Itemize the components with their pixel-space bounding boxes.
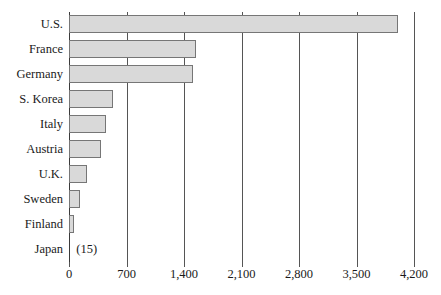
bar-row [69, 62, 414, 87]
bar-row [69, 212, 414, 237]
bar-row [69, 87, 414, 112]
bar [69, 90, 113, 108]
bar-row [69, 112, 414, 137]
category-label: Italy [40, 112, 63, 137]
category-label: Finland [25, 212, 63, 237]
category-label: U.S. [41, 12, 63, 37]
category-label: Sweden [23, 187, 63, 212]
category-axis-labels: U.S.FranceGermanyS. KoreaItalyAustriaU.K… [0, 12, 63, 262]
gridline [414, 12, 415, 262]
bar-row: (15) [69, 237, 414, 262]
tick-label: 700 [117, 266, 136, 282]
tick-label: 1,400 [170, 266, 198, 282]
bar [69, 40, 196, 58]
plot-area: (15) [69, 12, 414, 262]
bar-value-annotation: (15) [76, 240, 97, 258]
bar [69, 65, 193, 83]
category-label: Germany [16, 62, 63, 87]
bar [69, 165, 87, 183]
bar-chart: U.S.FranceGermanyS. KoreaItalyAustriaU.K… [0, 0, 441, 295]
tick-label: 2,100 [227, 266, 255, 282]
category-label: Austria [26, 137, 63, 162]
category-label: France [29, 37, 63, 62]
bar [69, 215, 74, 233]
tick-label: 3,500 [342, 266, 370, 282]
bar-row [69, 137, 414, 162]
bar [69, 15, 398, 33]
bar-row [69, 12, 414, 37]
tick-label: 2,800 [285, 266, 313, 282]
tick-label: 0 [66, 266, 72, 282]
category-label: Japan [35, 237, 63, 262]
bar [69, 115, 106, 133]
category-label: U.K. [39, 162, 63, 187]
category-label: S. Korea [19, 87, 63, 112]
bar-row [69, 37, 414, 62]
bar-row [69, 187, 414, 212]
bar [69, 140, 101, 158]
bar [69, 190, 80, 208]
tick-label: 4,200 [400, 266, 428, 282]
bar-row [69, 162, 414, 187]
